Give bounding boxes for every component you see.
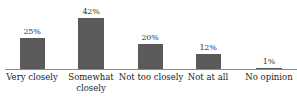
value-label-no-opinion: 1% [249,57,289,66]
category-label-no-opinion: No opinion [237,72,297,83]
category-label-not-at-all: Not at all [176,72,240,83]
category-label-very-closely: Very closely [0,72,64,83]
value-label-somewhat-closely: 42% [71,7,111,16]
value-label-not-at-all: 12% [188,43,228,52]
value-label-very-closely: 25% [12,27,52,36]
category-label-somewhat-closely: Somewhat closely [59,72,123,94]
bar-very-closely [20,38,45,69]
value-label-not-too-closely: 20% [130,33,170,42]
bar-not-at-all [196,54,221,69]
x-axis-baseline [5,69,297,70]
category-label-not-too-closely: Not too closely [118,72,184,83]
bar-chart: 25% Very closely 42% Somewhat closely 20… [0,0,297,106]
bar-not-too-closely [138,44,163,69]
bar-somewhat-closely [78,18,104,69]
